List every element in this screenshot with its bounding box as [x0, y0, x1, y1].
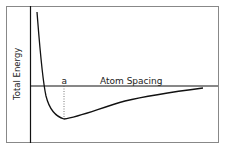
min-marker-label: a	[62, 76, 68, 86]
y-axis-label: Total Energy	[12, 48, 22, 101]
x-axis-label: Atom Spacing	[100, 76, 162, 86]
energy-curve	[37, 12, 203, 119]
energy-diagram: a Atom Spacing Total Energy	[0, 0, 225, 149]
